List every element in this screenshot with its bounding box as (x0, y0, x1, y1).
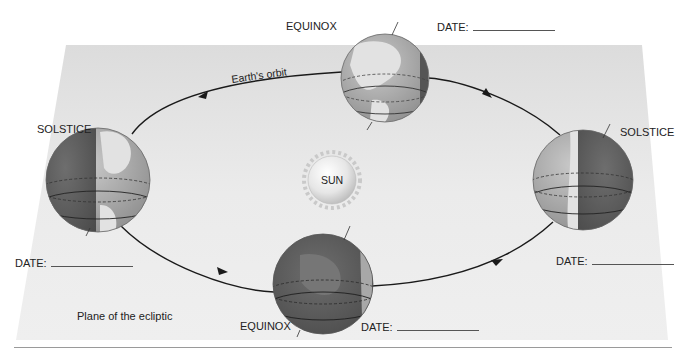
bottom-date-field[interactable]: DATE: (361, 320, 479, 333)
left-date-label: DATE: (15, 257, 47, 269)
bottom-date-blank[interactable] (397, 320, 479, 331)
right-date-field[interactable]: DATE: (556, 254, 674, 267)
right-date-blank[interactable] (592, 254, 674, 265)
left-event-label: SOLSTICE (37, 123, 91, 135)
top-date-label: DATE: (437, 21, 469, 33)
bottom-date-label: DATE: (361, 321, 393, 333)
right-event-label: SOLSTICE (620, 126, 674, 138)
top-date-blank[interactable] (473, 20, 555, 31)
orbit-diagram: Earth's orbit SUN (0, 0, 684, 356)
left-date-field[interactable]: DATE: (15, 256, 133, 269)
top-event-label: EQUINOX (286, 20, 337, 32)
plane-label: Plane of the ecliptic (77, 310, 172, 322)
top-date-field[interactable]: DATE: (437, 20, 555, 33)
bottom-rule (14, 347, 672, 348)
left-date-blank[interactable] (51, 256, 133, 267)
right-date-label: DATE: (556, 255, 588, 267)
bottom-event-label: EQUINOX (240, 320, 291, 332)
sun-label: SUN (321, 174, 343, 186)
